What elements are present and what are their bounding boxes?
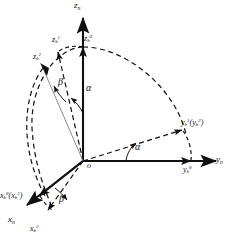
arc-z-to-y-dashed <box>83 47 186 134</box>
label-z-n: zn <box>74 1 80 11</box>
axis-y-b1-y-b2-dashed <box>83 130 182 161</box>
label-origin: o <box>87 162 91 170</box>
angle-arc-alpha-vertical <box>71 98 83 113</box>
label-x-b2: xb2 <box>30 225 39 234</box>
label-z-b1: zb1 <box>52 36 60 45</box>
angle-arc-beta-upper <box>54 86 66 102</box>
label-beta-upper: β <box>58 77 63 87</box>
arc-yb0-to-yb1-dashed <box>183 131 191 161</box>
label-z-b2: zb2 <box>33 53 41 62</box>
axis-x-b0-x-b1 <box>39 161 83 196</box>
coordinate-rotation-diagram: zn zb0 zb1 zb2 yn yb0 yb1(yb2) xn xb0(xb… <box>0 0 229 242</box>
label-x-b0-x-b1: xb0(xb1) <box>0 192 22 201</box>
label-beta-lower: β <box>59 194 64 204</box>
label-y-b0: yb0 <box>183 166 192 175</box>
label-z-b0: zb0 <box>84 35 92 44</box>
label-alpha-vertical: α <box>86 83 91 93</box>
label-y-b1-y-b2: yb1(yb2) <box>181 119 203 128</box>
label-y-n: yn <box>216 155 223 165</box>
label-x-n: xn <box>8 215 15 225</box>
label-alpha-horizontal: α <box>135 142 140 152</box>
arc-zb2-to-xb2-dashed <box>27 68 45 196</box>
